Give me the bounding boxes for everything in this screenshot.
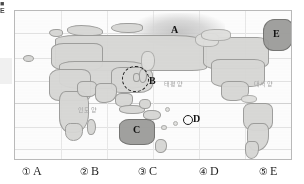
land-caribbean <box>241 95 257 103</box>
choice-number-5: ⑤ <box>259 166 268 177</box>
land-pacific-island <box>173 121 178 126</box>
answer-choice-5[interactable]: ⑤ E <box>259 164 277 179</box>
scan-artifact-line-1: ■ <box>0 0 9 7</box>
choice-number-3: ③ <box>138 166 147 177</box>
marker-circle-d <box>183 115 193 125</box>
world-map-figure: A B C D E 태평양 대서양 인도양 <box>14 10 292 160</box>
map-canvas: A B C D E 태평양 대서양 인도양 <box>15 11 291 159</box>
land-southern-africa <box>65 123 83 141</box>
choice-number-1: ① <box>22 166 31 177</box>
scan-band <box>0 58 12 84</box>
land-southern-cone <box>245 141 259 159</box>
land-madagascar <box>87 119 96 135</box>
choice-label-5: E <box>270 164 277 179</box>
land-canadian-arctic <box>201 29 231 41</box>
land-arabia <box>77 81 97 97</box>
map-marker-a: A <box>171 25 178 35</box>
land-severnaya <box>111 23 143 33</box>
choice-label-4: D <box>210 164 219 179</box>
map-marker-b: B <box>149 76 156 86</box>
choice-number-2: ② <box>80 166 89 177</box>
marker-circle-b <box>122 66 149 92</box>
answer-choice-2[interactable]: ② B <box>80 164 99 179</box>
ocean-label-indian: 인도양 <box>78 105 97 114</box>
answer-choice-4[interactable]: ④ D <box>199 164 219 179</box>
land-new-zealand <box>155 139 167 153</box>
scan-artifact-line-2: E <box>0 7 9 14</box>
land-philippines <box>139 99 151 109</box>
map-marker-d: D <box>193 114 200 124</box>
choice-label-2: B <box>91 164 99 179</box>
land-pacific-island <box>161 125 167 130</box>
answer-choice-list: ① A ② B ③ C ④ D ⑤ E <box>14 161 290 182</box>
land-azores <box>23 55 34 62</box>
answer-choice-1[interactable]: ① A <box>22 164 42 179</box>
land-pacific-island <box>165 107 170 112</box>
answer-choice-3[interactable]: ③ C <box>138 164 157 179</box>
land-india <box>95 83 117 103</box>
scan-artifact-mark: ■ E <box>0 0 9 22</box>
map-marker-c: C <box>133 125 140 135</box>
choice-number-4: ④ <box>199 166 208 177</box>
ocean-label-atlantic: 대서양 <box>254 79 273 88</box>
map-marker-e: E <box>273 29 280 39</box>
choice-label-3: C <box>149 164 157 179</box>
choice-label-1: A <box>33 164 42 179</box>
ocean-label-pacific: 태평양 <box>164 79 183 88</box>
